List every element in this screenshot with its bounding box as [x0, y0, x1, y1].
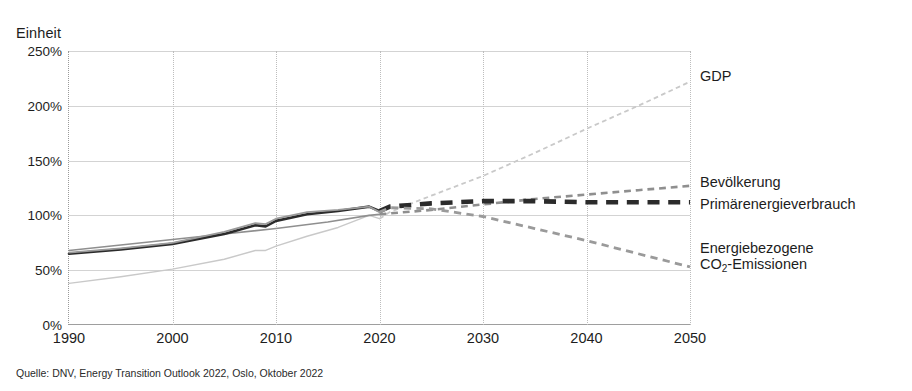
series-label-gdp: GDP: [700, 68, 731, 84]
plot-area: [69, 51, 690, 325]
series-label-co2-line1: Energiebezogene: [700, 240, 814, 256]
series-label-co2-line2: CO2-Emissionen: [700, 256, 807, 272]
y-tick-150: 150%: [27, 153, 62, 168]
x-tick-2010: 2010: [260, 330, 292, 346]
gridline-2050: [690, 51, 691, 325]
x-tick-2020: 2020: [363, 330, 395, 346]
x-tick-1990: 1990: [53, 330, 85, 346]
chart-root: Einheit 250% 200% 150% 100% 50% 0% 1990 …: [0, 0, 912, 391]
x-tick-2000: 2000: [156, 330, 188, 346]
y-tick-100: 100%: [27, 208, 62, 223]
co2-subscript: 2: [722, 263, 728, 274]
y-tick-250: 250%: [27, 44, 62, 59]
source-note: Quelle: DNV, Energy Transition Outlook 2…: [16, 367, 323, 379]
series-label-population: Bevölkerung: [700, 174, 781, 190]
co2-formula-suffix: -Emissionen: [727, 256, 807, 272]
x-tick-2050: 2050: [674, 330, 706, 346]
series-label-co2: Energiebezogene CO2-Emissionen: [700, 240, 814, 272]
co2-formula-prefix: CO: [700, 256, 722, 272]
y-tick-200: 200%: [27, 98, 62, 113]
x-tick-2040: 2040: [570, 330, 602, 346]
y-axis-unit-label: Einheit: [16, 25, 61, 41]
x-tick-2030: 2030: [467, 330, 499, 346]
y-tick-50: 50%: [35, 263, 62, 278]
y-axis-tick-group: 250% 200% 150% 100% 50% 0%: [0, 51, 62, 325]
series-label-primary-energy: Primärenergieverbrauch: [700, 196, 856, 212]
series-lines: [69, 51, 690, 325]
